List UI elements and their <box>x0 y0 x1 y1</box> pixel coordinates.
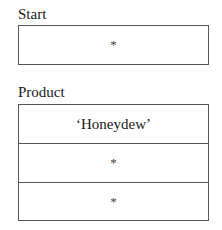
start-cell: * <box>19 26 208 64</box>
product-cell: ‘Honeydew’ <box>19 105 208 143</box>
wildcard-value: * <box>110 194 117 210</box>
product-cell: * <box>19 143 208 182</box>
product-box: ‘Honeydew’ * * <box>18 104 209 221</box>
wildcard-value: * <box>110 37 117 53</box>
start-box: * <box>18 25 209 65</box>
product-label: Product <box>18 84 65 100</box>
product-value: ‘Honeydew’ <box>76 116 151 133</box>
wildcard-value: * <box>110 155 117 171</box>
product-cell: * <box>19 182 208 220</box>
start-label: Start <box>18 6 46 22</box>
